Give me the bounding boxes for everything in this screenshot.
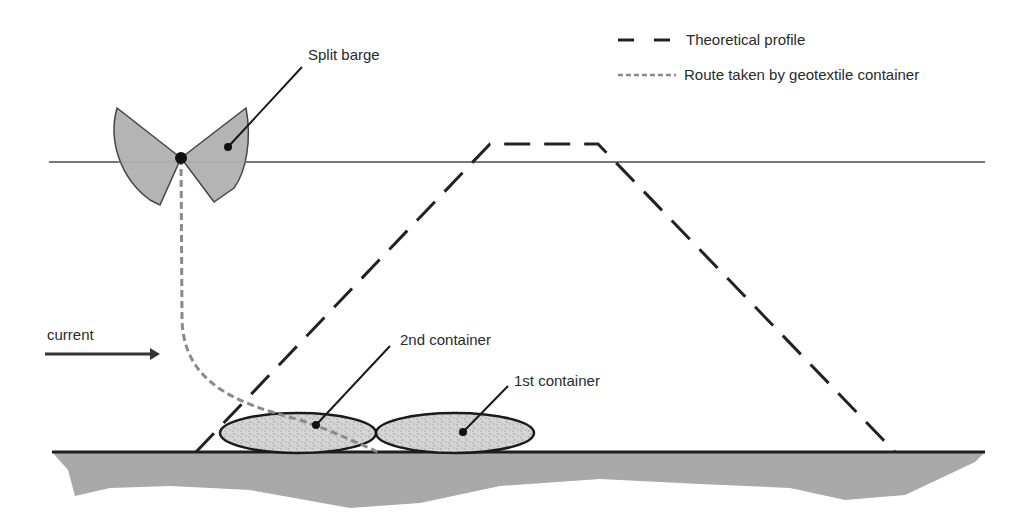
barge-left-hull bbox=[114, 108, 181, 205]
second-container-label: 2nd container bbox=[400, 331, 491, 348]
first-container-leader-dot bbox=[459, 428, 467, 436]
current-arrow-head bbox=[150, 348, 160, 360]
second-container bbox=[220, 413, 376, 453]
first-container-label: 1st container bbox=[514, 372, 600, 389]
current-label: current bbox=[47, 326, 95, 343]
theoretical-profile bbox=[196, 144, 895, 452]
split-barge-leader-dot bbox=[224, 143, 232, 151]
seabed bbox=[52, 452, 985, 508]
split-barge-leader bbox=[228, 67, 302, 147]
second-container-leader bbox=[316, 346, 390, 425]
split-barge-label: Split barge bbox=[308, 46, 380, 63]
legend-route-label: Route taken by geotextile container bbox=[684, 66, 919, 83]
barge-hinge bbox=[175, 152, 187, 164]
container-route bbox=[181, 158, 378, 452]
barge-right-hull bbox=[181, 108, 248, 202]
split-barge bbox=[114, 108, 248, 205]
first-container bbox=[376, 413, 534, 453]
geotextile-container-diagram: Split barge current 2nd container 1st co… bbox=[0, 0, 1025, 525]
legend: Theoretical profile Route taken by geote… bbox=[618, 31, 919, 83]
second-container-leader-dot bbox=[312, 421, 320, 429]
legend-profile-label: Theoretical profile bbox=[686, 31, 805, 48]
